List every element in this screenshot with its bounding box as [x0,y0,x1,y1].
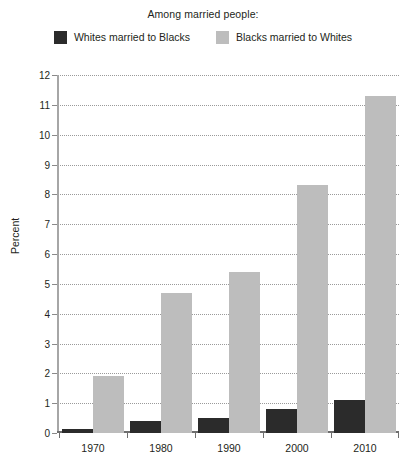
y-tick-label: 8 [44,189,50,200]
y-tick-mark [52,373,57,374]
y-tick-label: 3 [44,338,50,349]
y-tick-mark [52,344,57,345]
bar-1980-blacks-married-to-whites[interactable] [161,293,192,433]
x-tick-label-2000: 2000 [263,442,331,454]
gridline [57,194,399,195]
x-tick-label-1970: 1970 [59,442,127,454]
bar-group-1980: 1980 [127,75,195,433]
y-tick-label: 11 [40,99,50,110]
gridline [57,284,399,285]
bar-2000-whites-married-to-blacks[interactable] [266,409,297,433]
y-tick-label: 7 [44,219,50,230]
y-tick-mark [52,314,57,315]
gridline [57,75,399,76]
bar-group-1990: 1990 [195,75,263,433]
chart-legend: Whites married to Blacks Blacks married … [0,31,406,44]
plot-area: 0123456789101112 19701980199020002010 [57,75,399,433]
x-axis-line [57,431,399,433]
y-tick-mark [52,75,57,76]
x-tick-mark [263,433,264,438]
gridline [57,344,399,345]
y-tick-label: 4 [44,308,50,319]
gridline [57,135,399,136]
legend-item-blacks-married-to-whites: Blacks married to Whites [216,31,352,44]
bar-1970-blacks-married-to-whites[interactable] [93,376,124,433]
y-tick-mark [52,254,57,255]
gridline [57,105,399,106]
legend-swatch-gray [216,31,229,44]
x-tick-mark [127,433,128,438]
y-tick-mark [52,433,57,434]
y-axis-line [57,75,59,433]
y-tick-mark [52,135,57,136]
x-tick-mark [398,433,399,438]
legend-item-whites-married-to-blacks: Whites married to Blacks [54,31,190,44]
y-tick-label: 0 [44,428,50,439]
bar-group-1970: 1970 [59,75,127,433]
bar-1980-whites-married-to-blacks[interactable] [130,421,161,433]
y-tick-label: 9 [44,159,50,170]
gridline [57,403,399,404]
legend-swatch-dark [54,31,67,44]
x-tick-label-1980: 1980 [127,442,195,454]
bar-1990-whites-married-to-blacks[interactable] [198,418,229,433]
y-tick-mark [52,284,57,285]
gridline [57,165,399,166]
y-tick-label: 10 [39,129,50,140]
y-tick-label: 5 [44,278,50,289]
gridline [57,314,399,315]
legend-label-blacks-married-to-whites: Blacks married to Whites [236,31,352,44]
legend-label-whites-married-to-blacks: Whites married to Blacks [74,31,190,44]
y-tick-mark [52,165,57,166]
y-axis-title: Percent [9,218,21,254]
gridline [57,224,399,225]
gridline [57,254,399,255]
y-tick-mark [52,403,57,404]
bar-group-2000: 2000 [263,75,331,433]
x-tick-label-2010: 2010 [331,442,399,454]
chart-subtitle: Among married people: [0,7,406,21]
bar-1970-whites-married-to-blacks[interactable] [62,429,93,433]
chart-plot-wrapper: Percent 0123456789101112 197019801990200… [0,0,406,467]
y-tick-label: 2 [44,368,50,379]
bar-2000-blacks-married-to-whites[interactable] [297,185,328,433]
bar-2010-blacks-married-to-whites[interactable] [365,96,396,433]
y-tick-mark [52,105,57,106]
y-tick-label: 6 [44,249,50,260]
bar-2010-whites-married-to-blacks[interactable] [334,400,365,433]
y-tick-label: 12 [39,70,50,81]
chart-header: Among married people: Whites married to … [0,0,406,44]
bar-groups: 19701980199020002010 [59,75,399,433]
y-tick-label: 1 [44,398,50,409]
x-tick-mark [195,433,196,438]
y-tick-mark [52,194,57,195]
x-tick-label-1990: 1990 [195,442,263,454]
bar-group-2010: 2010 [331,75,399,433]
bar-1990-blacks-married-to-whites[interactable] [229,272,260,433]
y-tick-mark [52,224,57,225]
gridline [57,373,399,374]
x-tick-mark [59,433,60,438]
x-tick-mark [331,433,332,438]
